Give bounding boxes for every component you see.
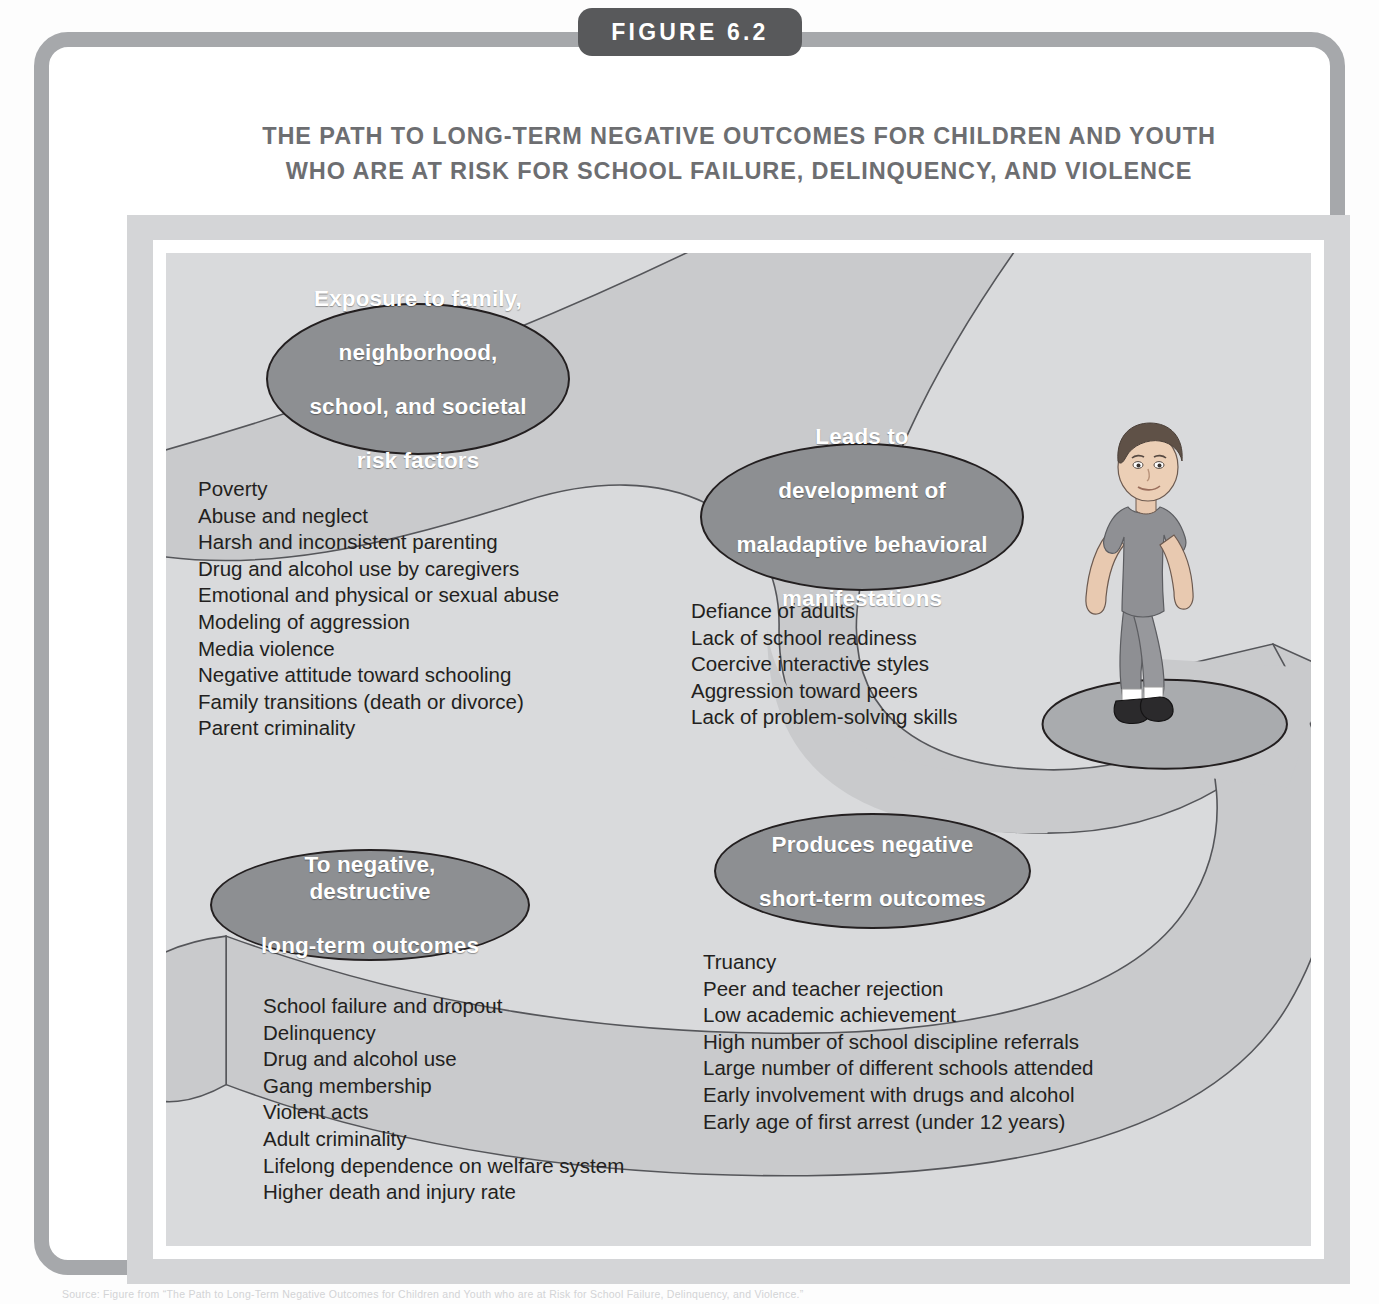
source-caption: Source: Figure from “The Path to Long-Te… xyxy=(62,1288,1342,1300)
figure-title-line-2: WHO ARE AT RISK FOR SCHOOL FAILURE, DELI… xyxy=(139,154,1339,189)
list-item: Media violence xyxy=(198,636,559,663)
node-produces-label: Produces negative short-term outcomes xyxy=(727,831,1018,912)
list-item: High number of school discipline referra… xyxy=(703,1029,1094,1056)
diagram-white-band: Exposure to family, neighborhood, school… xyxy=(153,240,1324,1259)
list-item: Abuse and neglect xyxy=(198,503,559,530)
diagram-plate: Exposure to family, neighborhood, school… xyxy=(127,215,1350,1284)
list-item: Violent acts xyxy=(263,1099,624,1126)
list-short-term-outcomes: Truancy Peer and teacher rejection Low a… xyxy=(703,949,1094,1135)
list-item: Lifelong dependence on welfare system xyxy=(263,1153,624,1180)
node-leads-to-development[interactable]: Leads to development of maladaptive beha… xyxy=(700,443,1024,591)
list-item: Gang membership xyxy=(263,1073,624,1100)
list-item: Coercive interactive styles xyxy=(691,651,958,678)
list-item: Delinquency xyxy=(263,1020,624,1047)
list-item: Early involvement with drugs and alcohol xyxy=(703,1082,1094,1109)
figure-number-badge: FIGURE 6.2 xyxy=(578,8,802,56)
list-item: Adult criminality xyxy=(263,1126,624,1153)
list-item: Modeling of aggression xyxy=(198,609,559,636)
list-maladaptive-manifestations: Defiance of adults Lack of school readin… xyxy=(691,598,958,731)
list-item: Aggression toward peers xyxy=(691,678,958,705)
figure-title: THE PATH TO LONG-TERM NEGATIVE OUTCOMES … xyxy=(139,119,1339,189)
list-item: Family transitions (death or divorce) xyxy=(198,689,559,716)
node-exposure-label: Exposure to family, neighborhood, school… xyxy=(277,285,558,474)
list-item: School failure and dropout xyxy=(263,993,624,1020)
list-item: Lack of problem-solving skills xyxy=(691,704,958,731)
list-item: Parent criminality xyxy=(198,715,559,742)
list-long-term-outcomes: School failure and dropout Delinquency D… xyxy=(263,993,624,1206)
diagram-canvas: Exposure to family, neighborhood, school… xyxy=(166,253,1311,1246)
list-item: Peer and teacher rejection xyxy=(703,976,1094,1003)
list-item: Harsh and inconsistent parenting xyxy=(198,529,559,556)
list-item: Negative attitude toward schooling xyxy=(198,662,559,689)
list-item: Poverty xyxy=(198,476,559,503)
list-item: Large number of different schools attend… xyxy=(703,1055,1094,1082)
list-item: Emotional and physical or sexual abuse xyxy=(198,582,559,609)
list-item: Drug and alcohol use by caregivers xyxy=(198,556,559,583)
list-item: Early age of first arrest (under 12 year… xyxy=(703,1109,1094,1136)
list-item: Lack of school readiness xyxy=(691,625,958,652)
node-longterm-label: To negative, destructive long-term outco… xyxy=(212,851,528,959)
list-item: Higher death and injury rate xyxy=(263,1179,624,1206)
list-risk-factors: Poverty Abuse and neglect Harsh and inco… xyxy=(198,476,559,742)
walking-boy-illustration xyxy=(1056,411,1236,741)
node-leads-label: Leads to development of maladaptive beha… xyxy=(704,423,1019,612)
list-item: Drug and alcohol use xyxy=(263,1046,624,1073)
node-long-term-outcomes[interactable]: To negative, destructive long-term outco… xyxy=(210,849,530,961)
list-item: Low academic achievement xyxy=(703,1002,1094,1029)
figure-frame: THE PATH TO LONG-TERM NEGATIVE OUTCOMES … xyxy=(34,32,1345,1275)
node-exposure-risk-factors[interactable]: Exposure to family, neighborhood, school… xyxy=(266,303,570,455)
list-item: Truancy xyxy=(703,949,1094,976)
figure-title-line-1: THE PATH TO LONG-TERM NEGATIVE OUTCOMES … xyxy=(139,119,1339,154)
node-produces-short-term-outcomes[interactable]: Produces negative short-term outcomes xyxy=(714,813,1031,929)
